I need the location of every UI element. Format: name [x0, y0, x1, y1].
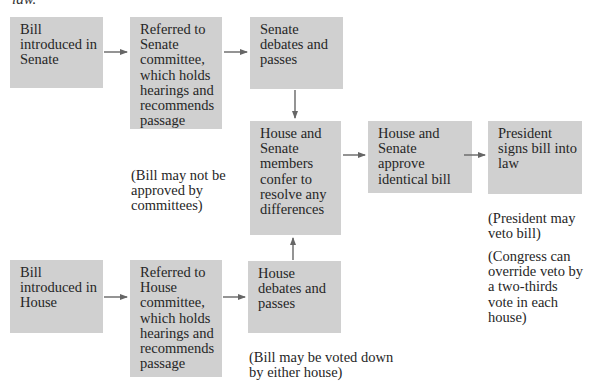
flow-arrows [0, 0, 591, 386]
